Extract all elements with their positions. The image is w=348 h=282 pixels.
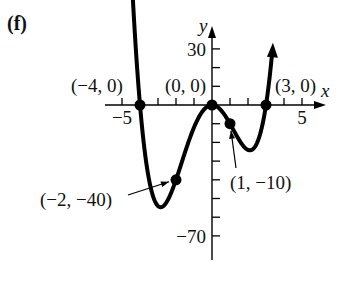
y-axis-arrow-icon [208, 26, 216, 38]
point-label: (3, 0) [275, 75, 316, 97]
data-point [261, 100, 272, 111]
y-axis-label: y [197, 15, 208, 36]
data-point [207, 100, 218, 111]
x-axis-label: x [320, 80, 330, 101]
leader-arrow-head-icon [160, 181, 169, 187]
x-tick-label: 5 [297, 107, 307, 128]
x-axis-arrow-icon [314, 101, 326, 109]
curve-right-arrow-icon [267, 43, 278, 58]
data-point [135, 100, 146, 111]
polynomial-graph: xy−5530−70(−4, 0)(0, 0)(3, 0)(−2, −40)(1… [0, 0, 348, 282]
y-tick-label: 30 [187, 39, 206, 60]
point-label: (−4, 0) [71, 75, 123, 97]
data-point [171, 174, 182, 185]
labels: xy−5530−70(−4, 0)(0, 0)(3, 0)(−2, −40)(1… [40, 15, 330, 247]
y-tick-label: −70 [176, 226, 206, 247]
point-label: (1, −10) [230, 172, 291, 194]
x-tick-label: −5 [112, 107, 132, 128]
point-label: (0, 0) [165, 75, 206, 97]
data-point [225, 118, 236, 129]
point-label: (−2, −40) [40, 189, 112, 211]
